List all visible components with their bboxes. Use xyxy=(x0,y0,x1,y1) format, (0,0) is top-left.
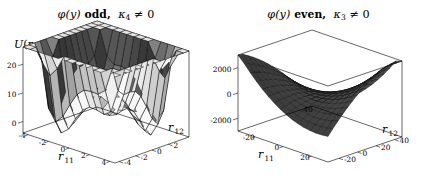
svg-text:r: r xyxy=(168,121,174,134)
axis-names-left: r11r12 xyxy=(58,121,184,165)
surface-mesh-left xyxy=(23,21,189,135)
right-xtick-label: 0 xyxy=(275,143,280,152)
svg-text:12: 12 xyxy=(389,129,398,138)
figure-container: φ(y) odd, κ4 ≠ 0 U(r11, r12) 01020-4-202… xyxy=(0,0,425,182)
right-ytick-label: 0 xyxy=(363,149,368,158)
panel-left: φ(y) odd, κ4 ≠ 0 U(r11, r12) 01020-4-202… xyxy=(0,0,212,182)
left-ytick-label: 0 xyxy=(157,147,162,156)
left-xtick-label: 2 xyxy=(81,151,86,160)
right-xtick-label: -20 xyxy=(243,133,255,142)
svg-text:r: r xyxy=(58,150,64,163)
right-ytick-label-extra: 40 xyxy=(303,105,313,114)
left-ztick-label: 0 xyxy=(12,119,17,128)
left-ytick-label: -4 xyxy=(124,158,131,167)
left-xtick-label: 4 xyxy=(101,158,106,167)
panel-right: φ(y) even, κ3 ≠ 0 U(r11, r12) -200002000… xyxy=(212,0,425,182)
panel-right-surface-plot: -200002000-20020-200204040 r11r12 xyxy=(212,0,425,182)
surface-mesh-right xyxy=(238,54,402,136)
left-ytick-label: -2 xyxy=(141,153,148,162)
svg-text:r: r xyxy=(258,148,264,161)
left-xtick-label: -4 xyxy=(18,131,25,140)
left-ytick-label: 2 xyxy=(173,141,178,150)
left-ztick-label: 20 xyxy=(7,61,17,70)
right-y-axis-name: r12 xyxy=(382,123,398,138)
right-ytick-label: 40 xyxy=(400,136,410,145)
right-ytick-label: -20 xyxy=(344,155,356,164)
right-ztick-label: 0 xyxy=(227,90,232,99)
right-x-axis-name: r11 xyxy=(258,148,274,163)
svg-text:11: 11 xyxy=(265,154,274,163)
panel-left-surface-plot: 01020-4-2024-4-202 r11r12 xyxy=(0,0,212,182)
right-ztick-label: -2000 xyxy=(210,116,232,125)
left-ztick-label: 10 xyxy=(7,90,17,99)
svg-text:11: 11 xyxy=(65,156,74,165)
svg-text:r: r xyxy=(382,123,388,136)
right-xtick-label: 20 xyxy=(300,153,310,162)
right-ytick-label: 20 xyxy=(381,143,391,152)
left-y-axis-name: r12 xyxy=(168,121,184,136)
svg-text:12: 12 xyxy=(175,127,184,136)
left-x-axis-name: r11 xyxy=(58,150,74,165)
right-ztick-label: 2000 xyxy=(213,65,232,74)
left-xtick-label: -2 xyxy=(39,138,46,147)
